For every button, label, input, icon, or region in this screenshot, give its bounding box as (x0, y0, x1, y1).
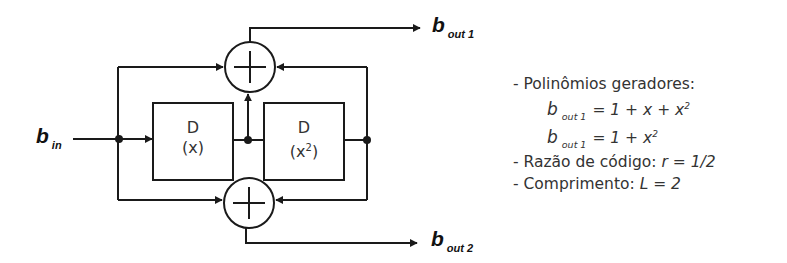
encoder-notes: - Polinômios geradores: bout 1= 1 + x + … (513, 73, 716, 195)
delay-box-1-label: D (x) (153, 118, 233, 158)
output-label-2: bout 2 (431, 227, 473, 251)
junction-dot-middle (244, 136, 252, 144)
junction-dot-left (115, 135, 123, 143)
delay-box-2-label: D (x2) (264, 118, 344, 162)
output-line-2 (246, 228, 417, 243)
polynomial-1: bout 1= 1 + x + x2 (513, 95, 716, 123)
input-label: bin (36, 124, 62, 148)
notes-constraint-length: - Comprimento: L = 2 (513, 173, 716, 195)
polynomial-2: bout 1= 1 + x2 (513, 123, 716, 151)
output-line-1 (250, 28, 420, 42)
notes-generator-polynomials: - Polinômios geradores: (513, 73, 716, 95)
junction-dot-right (363, 136, 371, 144)
output-label-1: bout 1 (432, 13, 474, 37)
notes-code-rate: - Razão de código: r = 1/2 (513, 151, 716, 173)
